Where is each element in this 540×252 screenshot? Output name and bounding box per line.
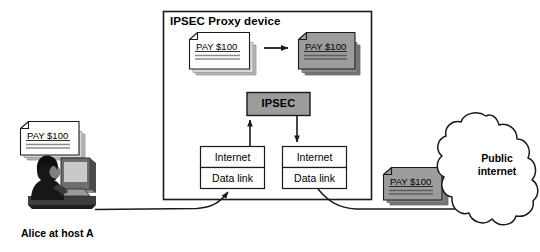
diagram-vector-layer (0, 0, 540, 252)
stack-right-datalink-label: Data link (282, 173, 347, 184)
stack-right-internet-label: Internet (282, 152, 347, 163)
wire-ciphertext-doc-label: PAY $100 (390, 177, 431, 187)
ipsec-module-label: IPSEC (256, 98, 301, 109)
cloud-label-line1: Public (467, 152, 527, 165)
ipsec-proxy-title: IPSEC Proxy device (170, 16, 280, 28)
proxy-ciphertext-document (299, 33, 361, 76)
proxy-plaintext-document (190, 33, 257, 76)
proxy-ciphertext-doc-label: PAY $100 (305, 42, 346, 52)
alice-plaintext-doc-label: PAY $100 (27, 131, 68, 141)
diagram-canvas: IPSEC Proxy device PAY $100 PAY $100 IPS… (0, 0, 540, 252)
stack-left-datalink-label: Data link (200, 173, 265, 184)
cloud-label-line2: internet (467, 165, 527, 178)
person-at-computer-icon (28, 156, 96, 209)
proxy-plaintext-doc-label: PAY $100 (196, 42, 237, 52)
stack-left-internet-label: Internet (200, 152, 265, 163)
alice-to-proxy-link (95, 192, 228, 210)
alice-host-label: Alice at host A (21, 228, 94, 239)
